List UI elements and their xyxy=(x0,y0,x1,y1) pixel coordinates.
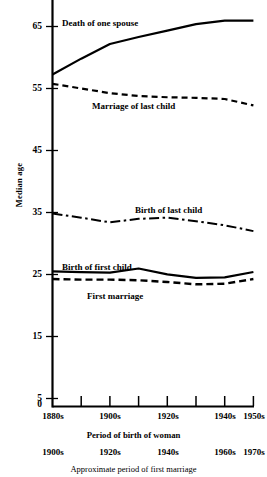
x-tick-label-1950s: 1950s xyxy=(232,411,267,421)
plot-area xyxy=(0,0,267,477)
x-axis-title-secondary: Approximate period of first marriage xyxy=(0,464,267,474)
x-tick-label2-1920s: 1920s xyxy=(88,447,132,457)
chart-container: Median age 65 55 45 35 25 15 5 0 xyxy=(0,0,267,477)
x-tick-label2-1940s: 1940s xyxy=(146,447,190,457)
series-death-of-one-spouse xyxy=(53,21,254,75)
series-label-birth-of-first-child: Birth of first child xyxy=(62,262,132,272)
series-birth-of-last-child xyxy=(53,214,254,232)
x-tick-label2-1970s: 1970s xyxy=(232,447,267,457)
x-tick-label2-1900s: 1900s xyxy=(31,447,75,457)
series-first-marriage xyxy=(53,279,254,284)
series-label-first-marriage: First marriage xyxy=(87,291,143,301)
x-axis-title: Period of birth of woman xyxy=(0,430,267,440)
series-lines xyxy=(53,21,254,285)
series-label-birth-of-last-child: Birth of last child xyxy=(135,205,202,215)
x-axis-ticks xyxy=(81,396,253,406)
series-label-death-of-one-spouse: Death of one spouse xyxy=(62,18,138,28)
x-tick-label-1880s: 1880s xyxy=(31,411,75,421)
x-tick-label-1920s: 1920s xyxy=(146,411,190,421)
x-tick-label-1900s: 1900s xyxy=(88,411,132,421)
series-label-marriage-of-last-child: Marriage of last child xyxy=(92,101,175,111)
